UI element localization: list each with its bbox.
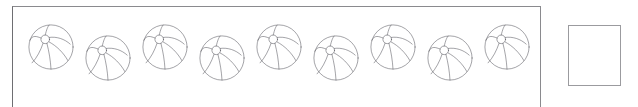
beach-ball-icon [426,34,474,82]
beach-ball-icon [369,23,417,71]
beach-ball-icon [84,34,132,82]
answer-input-box[interactable] [568,25,621,86]
beach-ball-row-panel [12,6,541,107]
beach-ball-icon [312,34,360,82]
beach-ball-row [13,7,540,107]
beach-ball-icon [255,23,303,71]
beach-ball-icon [141,23,189,71]
screenshot-canvas [0,0,638,107]
beach-ball-icon [27,23,75,71]
beach-ball-icon [198,34,246,82]
beach-ball-icon [483,23,531,71]
